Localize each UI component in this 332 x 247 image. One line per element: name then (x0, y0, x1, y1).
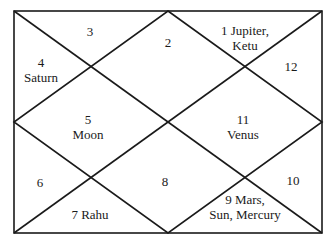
house-1-label: 1 Jupiter, (221, 23, 269, 38)
house-2-label: 2 (165, 35, 172, 50)
house-5-label: 5 (72, 112, 103, 127)
house-11-label: 11 (227, 112, 259, 127)
house-9-planets: Sun, Mercury (209, 207, 281, 222)
house-5-planets: Moon (72, 127, 103, 142)
house-10-label: 10 (287, 173, 300, 188)
house-12: 12 (285, 59, 298, 74)
house-6: 6 (37, 175, 44, 190)
house-1: 1 Jupiter, Ketu (221, 23, 269, 53)
house-3: 3 (87, 24, 94, 39)
house-11-planets: Venus (227, 127, 259, 142)
house-11: 11 Venus (227, 112, 259, 142)
house-9-label: 9 Mars, (209, 192, 281, 207)
house-6-label: 6 (37, 175, 44, 190)
house-4: 4 Saturn (24, 55, 58, 85)
house-3-label: 3 (87, 24, 94, 39)
house-10: 10 (287, 173, 300, 188)
house-8: 8 (162, 174, 169, 189)
house-5: 5 Moon (72, 112, 103, 142)
house-9: 9 Mars, Sun, Mercury (209, 192, 281, 222)
house-8-label: 8 (162, 174, 169, 189)
house-2: 2 (165, 35, 172, 50)
house-4-planets: Saturn (24, 70, 58, 85)
house-7: 7 Rahu (71, 207, 108, 222)
house-1-planets: Ketu (221, 38, 269, 53)
house-7-label: 7 Rahu (71, 207, 108, 222)
house-4-label: 4 (24, 55, 58, 70)
house-12-label: 12 (285, 59, 298, 74)
